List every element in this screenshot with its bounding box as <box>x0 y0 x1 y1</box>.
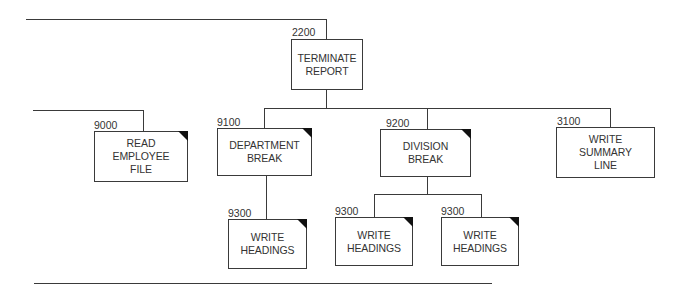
module-number-9000: 9000 <box>94 119 117 131</box>
module-label: WRITE HEADINGS <box>347 229 401 255</box>
module-number-3100: 3100 <box>557 115 580 127</box>
module-write-headings: WRITE HEADINGS <box>335 217 413 266</box>
module-label: WRITE HEADINGS <box>453 229 507 255</box>
predefined-module-corner-icon <box>178 131 188 141</box>
module-number-9300: 9300 <box>441 205 464 217</box>
connector-parent-to-2200 <box>326 19 327 39</box>
connector-2200-children-bar <box>264 108 611 109</box>
connector-9200-down <box>427 176 428 194</box>
connector-to-3100 <box>610 108 611 127</box>
connector-to-9300-right <box>481 194 482 217</box>
module-department-break: DEPARTMENT BREAK <box>217 128 312 176</box>
connector-to-9200 <box>427 108 428 129</box>
module-label: READ EMPLOYEE FILE <box>113 137 170 176</box>
module-terminate-report: TERMINATE REPORT <box>291 39 363 90</box>
module-label: DEPARTMENT BREAK <box>229 139 299 165</box>
module-write-headings: WRITE HEADINGS <box>441 217 519 266</box>
module-write-summary-line: WRITE SUMMARY LINE <box>556 127 655 178</box>
bottom-rule <box>34 283 492 284</box>
connector-parent-horizontal <box>26 19 327 20</box>
module-number-2200: 2200 <box>292 26 315 38</box>
module-write-headings: WRITE HEADINGS <box>228 219 307 269</box>
module-read-employee-file: READ EMPLOYEE FILE <box>94 131 188 182</box>
module-number-9100: 9100 <box>217 116 240 128</box>
connector-9200-children-bar <box>374 194 482 195</box>
connector-to-9000 <box>143 110 144 131</box>
connector-9000-horizontal <box>33 110 144 111</box>
connector-to-9300-left <box>374 194 375 217</box>
module-label: WRITE HEADINGS <box>240 231 294 257</box>
module-label: TERMINATE REPORT <box>298 52 357 78</box>
module-label: WRITE SUMMARY LINE <box>579 133 632 172</box>
connector-9100-to-9300 <box>266 176 267 219</box>
module-number-9300: 9300 <box>228 207 251 219</box>
predefined-module-corner-icon <box>509 217 519 227</box>
predefined-module-corner-icon <box>461 129 471 139</box>
predefined-module-corner-icon <box>403 217 413 227</box>
connector-to-9100 <box>264 108 265 128</box>
module-label: DIVISION BREAK <box>403 140 448 166</box>
structure-chart: 2200 TERMINATE REPORT 9000 READ EMPLOYEE… <box>0 0 682 294</box>
predefined-module-corner-icon <box>297 219 307 229</box>
connector-2200-down <box>326 89 327 108</box>
module-division-break: DIVISION BREAK <box>380 129 471 177</box>
predefined-module-corner-icon <box>302 128 312 138</box>
module-number-9300: 9300 <box>335 205 358 217</box>
module-number-9200: 9200 <box>386 117 409 129</box>
